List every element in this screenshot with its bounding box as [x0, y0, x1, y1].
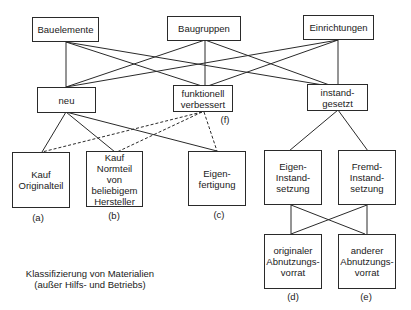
label-f: (f): [218, 114, 232, 125]
node-instandgesetzt: instand- gesetzt: [307, 84, 368, 111]
label-d: (d): [283, 291, 303, 302]
node-einrichtungen: Einrichtungen: [303, 15, 374, 40]
diagram-caption: Klassifizierung von Materialien (außer H…: [20, 268, 160, 290]
node-eigenfertigung: Eigen- fertigung: [188, 151, 246, 206]
node-baugruppen: Baugruppen: [167, 16, 241, 41]
node-fremd-instandsetzung: Fremd- Instand- setzung: [338, 150, 396, 205]
label-b: (b): [104, 210, 124, 221]
node-anderer-abnutzungsvorrat: anderer Abnutzungs- vorrat: [338, 234, 396, 289]
node-kauf-originalteil: Kauf Originalteil: [12, 152, 70, 208]
label-e: (e): [356, 291, 376, 302]
node-kauf-normteil: Kauf Normteil von beliebigem Hersteller: [86, 151, 143, 207]
label-c: (c): [209, 209, 229, 220]
node-originaler-abnutzungsvorrat: originaler Abnutzungs- vorrat: [264, 234, 322, 289]
node-neu: neu: [37, 87, 96, 113]
node-funktionell-verbessert: funktionell verbessert: [173, 85, 233, 112]
label-a: (a): [28, 212, 48, 223]
node-eigen-instandsetzung: Eigen- Instand- setzung: [264, 150, 322, 205]
node-bauelemente: Bauelemente: [32, 17, 99, 42]
